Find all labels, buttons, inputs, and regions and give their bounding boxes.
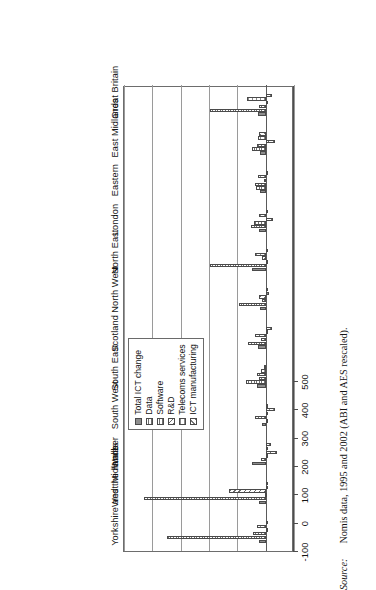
bar bbox=[264, 179, 266, 182]
bar bbox=[266, 94, 272, 97]
bar bbox=[260, 151, 266, 154]
category-label: North East bbox=[111, 230, 120, 274]
bar bbox=[247, 97, 266, 100]
bar-group bbox=[124, 482, 292, 505]
category-label: London bbox=[111, 204, 120, 235]
legend-label: ICT manufacturing bbox=[189, 344, 198, 415]
axis-tick-label: 200 bbox=[299, 459, 310, 475]
bar bbox=[254, 221, 266, 224]
axis-tick bbox=[293, 438, 298, 439]
axis-tick bbox=[293, 551, 298, 552]
legend-item: R&D bbox=[166, 344, 177, 425]
bar bbox=[266, 447, 268, 450]
bar bbox=[266, 327, 273, 330]
bar bbox=[266, 292, 270, 295]
plot-area bbox=[123, 86, 293, 552]
source-label: Source: bbox=[338, 559, 349, 590]
bar bbox=[266, 249, 268, 252]
legend-label: Software bbox=[156, 381, 165, 415]
bar bbox=[260, 307, 266, 310]
bar bbox=[255, 183, 266, 186]
bar bbox=[266, 521, 268, 524]
source-caption: Source: Nomis data, 1995 and 2002 (ABI a… bbox=[338, 0, 349, 590]
category-label: Wales bbox=[111, 442, 120, 468]
category-label: Eastern bbox=[111, 164, 120, 196]
bar bbox=[257, 384, 266, 387]
bar bbox=[257, 373, 266, 376]
legend-item: Data bbox=[144, 344, 155, 425]
bar bbox=[266, 288, 268, 291]
bar-group bbox=[124, 249, 292, 272]
category-axis-labels: Yorkshire and the HumberWest MidlandsWal… bbox=[0, 86, 122, 552]
bar bbox=[167, 536, 266, 539]
bar bbox=[259, 540, 265, 543]
bar bbox=[259, 105, 266, 108]
bar-group bbox=[124, 287, 292, 310]
bar bbox=[253, 532, 266, 535]
bar-group bbox=[124, 210, 292, 233]
bar bbox=[266, 404, 268, 407]
axis-tick bbox=[293, 409, 298, 410]
bar bbox=[229, 489, 266, 492]
bar-group bbox=[124, 171, 292, 194]
bar bbox=[252, 147, 266, 150]
bar bbox=[261, 458, 266, 461]
legend-swatch-icon bbox=[190, 418, 197, 425]
bar bbox=[262, 423, 266, 426]
bar bbox=[248, 342, 266, 345]
bar bbox=[266, 419, 268, 422]
bar bbox=[265, 493, 267, 496]
axis-tick-label: 300 bbox=[299, 431, 310, 447]
axis-rule bbox=[293, 86, 294, 552]
axis-tick-label: 400 bbox=[299, 403, 310, 419]
bar bbox=[260, 190, 266, 193]
category-label: Scotland bbox=[111, 315, 120, 352]
bar-group bbox=[124, 132, 292, 155]
bar bbox=[144, 497, 266, 500]
bar bbox=[255, 334, 265, 337]
category-label: Great Britain bbox=[111, 66, 120, 119]
bar bbox=[261, 369, 266, 372]
bar bbox=[258, 136, 266, 139]
bar bbox=[252, 462, 265, 465]
bar-group bbox=[124, 443, 292, 466]
axis-tick bbox=[293, 494, 298, 495]
bar bbox=[258, 112, 265, 115]
bar bbox=[266, 443, 271, 446]
bar bbox=[266, 454, 268, 457]
legend-swatch-icon bbox=[157, 418, 164, 425]
legend-swatch-icon bbox=[179, 418, 186, 425]
bar bbox=[259, 501, 266, 504]
bar bbox=[266, 171, 268, 174]
axis-tick-label: 0 bbox=[299, 521, 310, 526]
axis-tick-label: 100 bbox=[299, 488, 310, 504]
bar bbox=[266, 210, 268, 213]
legend-item: ICT manufacturing bbox=[188, 344, 199, 425]
bar bbox=[257, 525, 266, 528]
legend-swatch-icon bbox=[168, 418, 175, 425]
bar bbox=[266, 408, 275, 411]
bar-group bbox=[124, 93, 292, 116]
bar bbox=[255, 253, 265, 256]
bar bbox=[266, 330, 268, 333]
legend-item: Software bbox=[155, 344, 166, 425]
rotated-page-stage: Yorkshire and the HumberWest MidlandsWal… bbox=[0, 0, 376, 590]
bar bbox=[259, 377, 266, 380]
bar bbox=[266, 101, 269, 104]
source-text: Nomis data, 1995 and 2002 (ABI and AES r… bbox=[338, 327, 349, 543]
bar bbox=[246, 380, 265, 383]
legend-swatch-icon bbox=[146, 418, 153, 425]
bar bbox=[258, 175, 265, 178]
bar bbox=[262, 299, 266, 302]
bar bbox=[255, 416, 265, 419]
axis-tick bbox=[293, 466, 298, 467]
bar bbox=[210, 109, 266, 112]
bar bbox=[266, 451, 277, 454]
chart-legend: Total ICT changeDataSoftwareR&DTelecoms … bbox=[128, 338, 204, 430]
figure: Yorkshire and the HumberWest MidlandsWal… bbox=[0, 0, 376, 590]
bar bbox=[261, 338, 265, 341]
bar bbox=[259, 295, 266, 298]
axis-tick-label: -100 bbox=[299, 543, 310, 562]
legend-label: R&D bbox=[167, 397, 176, 415]
bar bbox=[266, 140, 275, 143]
